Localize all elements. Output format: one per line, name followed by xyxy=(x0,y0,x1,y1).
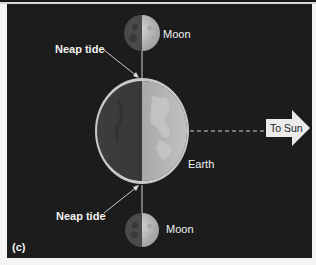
moon-top-icon xyxy=(124,15,160,51)
earth-icon xyxy=(95,78,189,184)
neap-tide-bottom-label: Neap tide xyxy=(56,210,106,222)
moon-bottom-icon xyxy=(125,213,159,247)
neap-tide-pointer-bottom xyxy=(104,185,139,213)
panel-letter: (c) xyxy=(12,241,25,253)
neap-tide-pointer-top xyxy=(104,50,139,78)
moon-bottom-label: Moon xyxy=(166,223,194,235)
neap-tide-diagram xyxy=(0,0,316,265)
moon-top-label: Moon xyxy=(163,28,191,40)
earth-label: Earth xyxy=(188,158,214,170)
to-sun-label: To Sun xyxy=(270,122,303,134)
neap-tide-top-label: Neap tide xyxy=(55,43,105,55)
